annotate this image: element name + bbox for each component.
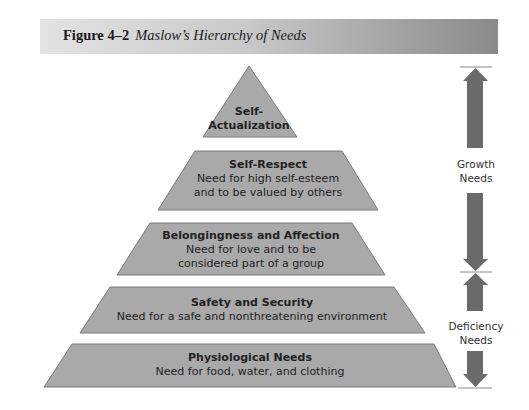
tier-self-actualization-label: Self- Actualization [199, 105, 299, 133]
deficiency-up-arrow-icon [463, 273, 488, 311]
tier-description: and to be valued by others [168, 186, 368, 200]
growth-down-arrow-icon [463, 193, 488, 271]
deficiency-needs-label: Deficiency Needs [441, 319, 511, 347]
tier-safety-label: Safety and Security Need for a safe and … [92, 296, 412, 324]
tier-belongingness-label: Belongingness and Affection Need for lov… [126, 229, 376, 271]
tier-description: Need for love and to be [126, 243, 376, 257]
tier-physiological-label: Physiological Needs Need for food, water… [100, 351, 400, 379]
tier-description: considered part of a group [126, 257, 376, 271]
tier-title: Belongingness and Affection [126, 229, 376, 243]
tier-title: Physiological Needs [100, 351, 400, 365]
growth-needs-label: Growth Needs [441, 157, 511, 185]
pyramid-diagram [0, 0, 529, 410]
tier-description: Need for food, water, and clothing [100, 365, 400, 379]
growth-up-arrow-icon [463, 68, 488, 148]
deficiency-down-arrow-icon [463, 351, 488, 387]
tier-title: Self-Respect [168, 158, 368, 172]
tier-title: Safety and Security [92, 296, 412, 310]
tier-description: Need for high self-esteem [168, 172, 368, 186]
tier-description: Need for a safe and nonthreatening envir… [92, 310, 412, 324]
tier-self-respect-label: Self-Respect Need for high self-esteem a… [168, 158, 368, 200]
